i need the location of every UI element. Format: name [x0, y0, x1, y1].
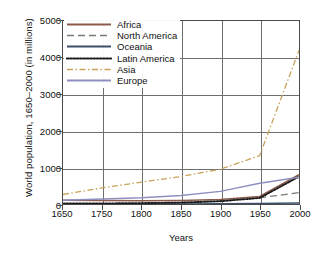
legend-swatch-north-america — [66, 30, 112, 41]
x-axis-tick-mark — [221, 205, 222, 210]
legend-swatch-europe — [66, 75, 112, 86]
y-axis-tick-label: 5000 — [21, 15, 61, 26]
y-axis-tick-label: 2000 — [21, 126, 61, 137]
legend-item: North America — [66, 30, 177, 41]
x-axis-tick-mark — [300, 205, 301, 210]
legend-item: Africa — [66, 19, 177, 30]
chart-legend: AfricaNorth AmericaOceaniaLatin AmericaA… — [64, 17, 180, 88]
legend-swatch-oceania — [66, 41, 112, 52]
x-axis-tick-mark — [181, 205, 182, 210]
x-axis-tick-mark — [141, 205, 142, 210]
legend-label: Latin America — [117, 53, 175, 64]
legend-label: Oceania — [117, 41, 152, 52]
y-axis-tick-label: 4000 — [21, 52, 61, 63]
legend-label: Africa — [117, 19, 141, 30]
legend-swatch-asia — [66, 64, 112, 75]
x-axis-tick-mark — [260, 205, 261, 210]
legend-swatch-africa — [66, 19, 112, 30]
chart-figure: World population, 1650–2000 (in millions… — [0, 0, 329, 257]
legend-label: North America — [117, 30, 177, 41]
legend-swatch-latin-america — [66, 53, 112, 64]
legend-label: Europe — [117, 75, 148, 86]
y-axis-tick-label: 3000 — [21, 89, 61, 100]
legend-item: Latin America — [66, 53, 177, 64]
legend-item: Asia — [66, 64, 177, 75]
x-axis-tick-mark — [62, 205, 63, 210]
legend-label: Asia — [117, 64, 135, 75]
legend-item: Oceania — [66, 41, 177, 52]
x-axis-title: Years — [62, 232, 300, 243]
y-axis-title: World population, 1650–2000 (in millions… — [23, 3, 34, 213]
x-axis-tick-mark — [102, 205, 103, 210]
legend-item: Europe — [66, 75, 177, 86]
y-axis-tick-label: 1000 — [21, 163, 61, 174]
